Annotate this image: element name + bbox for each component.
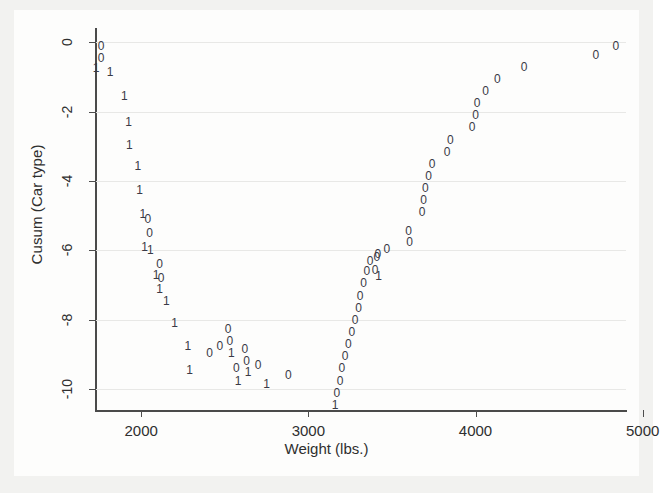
x-tick-label: 4000 <box>441 422 511 439</box>
y-axis-label: Cusum (Car type) <box>28 65 45 345</box>
data-point-marker: 0 <box>357 290 364 302</box>
plot-area: 0-2-4-6-8-10 2000300040005000 0011111111… <box>96 32 626 410</box>
data-point-marker: 1 <box>156 283 163 295</box>
data-point-marker: 0 <box>384 243 391 255</box>
data-point-marker: 0 <box>146 227 153 239</box>
x-tick-mark <box>643 410 644 417</box>
data-point-marker: 1 <box>228 347 235 359</box>
data-point-marker: 0 <box>469 121 476 133</box>
data-point-marker: 0 <box>285 369 292 381</box>
data-point-marker: 0 <box>333 387 340 399</box>
data-point-marker: 1 <box>136 184 143 196</box>
data-point-marker: 0 <box>521 61 528 73</box>
x-tick-mark <box>476 410 477 417</box>
y-tick-label: -4 <box>59 166 75 196</box>
data-point-marker: 0 <box>425 170 432 182</box>
data-point-marker: 0 <box>429 158 436 170</box>
data-point-marker: 0 <box>348 326 355 338</box>
y-tick-mark <box>89 112 96 113</box>
data-point-marker: 0 <box>444 146 451 158</box>
data-point-marker: 0 <box>419 206 426 218</box>
data-point-marker: 1 <box>245 366 252 378</box>
data-point-marker: 0 <box>406 236 413 248</box>
data-point-marker: 1 <box>235 375 242 387</box>
data-point-marker: 0 <box>216 340 223 352</box>
data-point-marker: 0 <box>144 213 151 225</box>
x-tick-label: 5000 <box>608 422 664 439</box>
data-point-marker: 1 <box>186 364 193 376</box>
data-point-marker: 1 <box>93 62 100 74</box>
data-point-marker: 1 <box>171 317 178 329</box>
x-tick-mark <box>141 410 142 417</box>
y-tick-mark <box>89 42 96 43</box>
data-point-marker: 0 <box>352 314 359 326</box>
x-axis-line <box>95 410 627 412</box>
y-tick-mark <box>89 250 96 251</box>
data-point-marker: 1 <box>263 378 270 390</box>
x-axis-label: Weight (lbs.) <box>0 440 653 457</box>
gridline <box>96 250 626 251</box>
data-point-marker: 1 <box>185 340 192 352</box>
data-point-marker: 0 <box>447 134 454 146</box>
y-tick-label: -2 <box>59 97 75 127</box>
data-point-marker: 0 <box>374 248 381 260</box>
data-point-marker: 0 <box>337 375 344 387</box>
y-tick-label: -10 <box>59 374 75 404</box>
data-point-marker: 0 <box>613 40 620 52</box>
data-point-marker: 1 <box>121 90 128 102</box>
data-point-marker: 1 <box>147 244 154 256</box>
data-point-marker: 1 <box>125 116 132 128</box>
data-point-marker: 1 <box>163 295 170 307</box>
gridline <box>96 112 626 113</box>
y-tick-label: -6 <box>59 235 75 265</box>
data-point-marker: 0 <box>482 85 489 97</box>
data-point-marker: 0 <box>494 73 501 85</box>
data-point-marker: 1 <box>375 270 382 282</box>
data-point-marker: 0 <box>422 182 429 194</box>
data-point-marker: 0 <box>472 109 479 121</box>
data-point-marker: 0 <box>360 277 367 289</box>
data-point-marker: 1 <box>107 66 114 78</box>
data-point-marker: 0 <box>255 359 262 371</box>
gridline <box>96 181 626 182</box>
data-point-marker: 0 <box>206 347 213 359</box>
data-point-marker: 1 <box>126 139 133 151</box>
x-tick-mark <box>308 410 309 417</box>
data-point-marker: 0 <box>355 302 362 314</box>
data-point-marker: 1 <box>332 399 339 411</box>
data-point-marker: 0 <box>342 350 349 362</box>
y-tick-label: -8 <box>59 305 75 335</box>
data-point-marker: 0 <box>593 49 600 61</box>
data-point-marker: 0 <box>474 97 481 109</box>
y-tick-mark <box>89 389 96 390</box>
data-point-marker: 0 <box>338 362 345 374</box>
gridline <box>96 42 626 43</box>
y-tick-mark <box>89 320 96 321</box>
x-tick-label: 3000 <box>273 422 343 439</box>
data-point-marker: 1 <box>134 160 141 172</box>
y-tick-mark <box>89 181 96 182</box>
gridline <box>96 389 626 390</box>
y-tick-label: 0 <box>59 27 75 57</box>
data-point-marker: 0 <box>420 194 427 206</box>
x-tick-label: 2000 <box>106 422 176 439</box>
data-point-marker: 0 <box>345 338 352 350</box>
